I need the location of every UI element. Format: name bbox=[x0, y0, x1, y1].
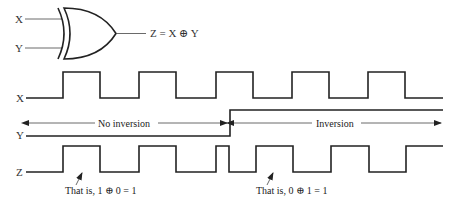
waveform-x-label: X bbox=[16, 92, 24, 104]
gate-input-x-label: X bbox=[15, 13, 23, 25]
annotation-1: That is, 1 ⊕ 0 = 1 bbox=[65, 173, 137, 196]
gate-body bbox=[64, 8, 116, 59]
gate-output-expression: Z = X ⊕ Y bbox=[150, 27, 199, 39]
annotation-2: That is, 0 ⊕ 1 = 1 bbox=[256, 173, 328, 196]
annotation-2-text: That is, 0 ⊕ 1 = 1 bbox=[256, 185, 328, 196]
waveform-z-label: Z bbox=[16, 166, 23, 178]
gate-input-y-label: Y bbox=[15, 42, 23, 54]
gate-back-curve bbox=[58, 8, 64, 59]
xor-gate-icon: X Y Z = X ⊕ Y bbox=[15, 8, 199, 59]
waveform-z bbox=[26, 146, 443, 172]
no-inversion-label: No inversion bbox=[98, 118, 150, 129]
annotation-1-text: That is, 1 ⊕ 0 = 1 bbox=[65, 185, 137, 196]
waveform-x bbox=[26, 72, 443, 98]
waveform-y-label: Y bbox=[16, 129, 24, 141]
xor-timing-diagram: X Y Z = X ⊕ Y X Y No inversion Inversion… bbox=[0, 0, 454, 199]
inversion-region: Inversion bbox=[233, 118, 441, 129]
inversion-label: Inversion bbox=[316, 118, 354, 129]
no-inversion-region: No inversion bbox=[28, 118, 227, 129]
